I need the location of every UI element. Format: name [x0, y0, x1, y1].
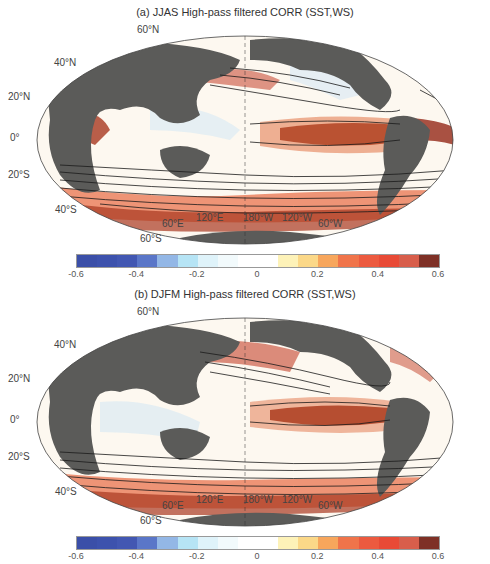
lon-label-120e: 120°E [196, 212, 223, 223]
lat-label-0: 0° [10, 414, 20, 425]
colorbar-bin [399, 255, 419, 267]
colorbar-tick: -0.6 [68, 269, 84, 279]
colorbar-bin [218, 255, 238, 267]
colorbar-bin [157, 537, 177, 549]
panel-a: (a) JJAS High-pass filtered CORR (SST,WS… [0, 0, 490, 282]
colorbar-tick: 0 [254, 551, 259, 561]
colorbar-bin [338, 537, 358, 549]
colorbar-tick: -0.2 [189, 551, 205, 561]
lon-label-120w: 120°W [282, 212, 312, 223]
lat-label-60n: 60°N [137, 306, 159, 317]
colorbar-bin [238, 537, 258, 549]
colorbar-tick: 0.4 [371, 269, 384, 279]
colorbar-bin [238, 255, 258, 267]
lon-label-60e: 60°E [162, 500, 184, 511]
lat-label-60n: 60°N [137, 24, 159, 35]
lat-label-20n: 20°N [8, 373, 30, 384]
colorbar-tick: -0.4 [129, 551, 145, 561]
colorbar-tick: -0.2 [189, 269, 205, 279]
colorbar-bin [117, 255, 137, 267]
colorbar-bin [419, 255, 439, 267]
colorbar-bin [399, 537, 419, 549]
colorbar-bin [97, 537, 117, 549]
lat-label-20s: 20°S [8, 451, 30, 462]
colorbar-bin [178, 537, 198, 549]
colorbar-tick: 0.6 [432, 551, 445, 561]
colorbar-bin [379, 255, 399, 267]
colorbar-a [76, 254, 440, 268]
lon-label-180w: 180°W [243, 212, 273, 223]
colorbar-tick: 0.6 [432, 269, 445, 279]
lon-label-120e: 120°E [196, 494, 223, 505]
lat-label-40n: 40°N [54, 57, 76, 68]
colorbar-ticks-a: -0.6 -0.4 -0.2 0 0.2 0.4 0.6 [76, 269, 438, 283]
colorbar-bin [218, 537, 238, 549]
colorbar-bin [278, 255, 298, 267]
colorbar-tick: 0.2 [311, 269, 324, 279]
colorbar-tick: 0.4 [371, 551, 384, 561]
colorbar-bin [338, 255, 358, 267]
colorbar-b [76, 536, 440, 550]
colorbar-bin [318, 255, 338, 267]
colorbar-bin [278, 537, 298, 549]
lat-label-20s: 20°S [8, 169, 30, 180]
colorbar-bin [198, 537, 218, 549]
lat-label-60s: 60°S [140, 515, 162, 526]
map-djfm [0, 282, 490, 564]
lat-label-40n: 40°N [54, 339, 76, 350]
lat-label-20n: 20°N [8, 91, 30, 102]
lon-label-60w: 60°W [318, 500, 343, 511]
colorbar-tick: -0.4 [129, 269, 145, 279]
colorbar-bin [77, 537, 97, 549]
lon-label-60e: 60°E [162, 218, 184, 229]
colorbar-tick: -0.6 [68, 551, 84, 561]
colorbar-bin [359, 255, 379, 267]
colorbar-bin [137, 255, 157, 267]
colorbar-bin [298, 255, 318, 267]
lat-label-40s: 40°S [55, 486, 77, 497]
lon-label-180w: 180°W [243, 494, 273, 505]
colorbar-bin [318, 537, 338, 549]
colorbar-bin [258, 255, 278, 267]
lat-label-0: 0° [10, 132, 20, 143]
lat-label-60s: 60°S [140, 233, 162, 244]
lon-label-60w: 60°W [318, 218, 343, 229]
colorbar-bin [298, 537, 318, 549]
panel-b: (b) DJFM High-pass filtered CORR (SST,WS… [0, 282, 490, 564]
colorbar-bin [379, 537, 399, 549]
colorbar-tick: 0.2 [311, 551, 324, 561]
colorbar-bin [97, 255, 117, 267]
colorbar-bin [198, 255, 218, 267]
colorbar-ticks-b: -0.6 -0.4 -0.2 0 0.2 0.4 0.6 [76, 551, 438, 564]
colorbar-bin [157, 255, 177, 267]
colorbar-bin [178, 255, 198, 267]
map-jjas [0, 0, 490, 282]
lon-label-120w: 120°W [282, 494, 312, 505]
colorbar-bin [137, 537, 157, 549]
lat-label-40s: 40°S [55, 204, 77, 215]
colorbar-tick: 0 [254, 269, 259, 279]
colorbar-bin [258, 537, 278, 549]
colorbar-bin [359, 537, 379, 549]
colorbar-bin [419, 537, 439, 549]
colorbar-bin [117, 537, 137, 549]
colorbar-bin [77, 255, 97, 267]
